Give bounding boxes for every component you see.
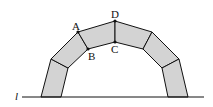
label-d: D [111, 8, 119, 20]
arch-stones [41, 21, 188, 97]
label-b: B [88, 50, 95, 62]
label-c: C [111, 43, 118, 55]
label-a: A [72, 20, 80, 32]
label-ground-line: l [15, 90, 18, 102]
arch-diagram: A B C D l [0, 0, 213, 107]
